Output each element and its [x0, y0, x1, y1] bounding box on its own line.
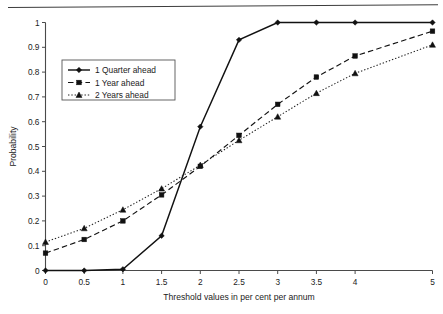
data-point-marker: [43, 251, 48, 256]
x-axis-tick-label: 3.5: [311, 277, 323, 287]
legend-item-label: 2 Years ahead: [95, 90, 149, 100]
x-axis-tick-label: 0.5: [78, 277, 90, 287]
legend-item-label: 1 Year ahead: [95, 78, 145, 88]
data-point-marker: [352, 20, 357, 25]
y-axis-tick-label: 0.4: [28, 166, 40, 176]
y-axis-tick-label: 0: [35, 266, 40, 276]
data-point-marker: [198, 124, 203, 129]
y-axis-tick-label: 0.1: [28, 241, 40, 251]
data-point-marker: [82, 237, 87, 242]
x-axis-tick-label: 5: [430, 277, 435, 287]
data-point-marker: [77, 80, 82, 85]
data-point-marker: [236, 137, 242, 142]
data-point-marker: [236, 37, 241, 42]
x-axis-tick-label: 4: [353, 277, 358, 287]
axis-titles-layer: Threshold values in per cent per annumPr…: [8, 126, 315, 302]
data-point-marker: [81, 225, 87, 230]
y-axis-tick-label: 0.6: [28, 117, 40, 127]
y-axis-tick-label: 0.8: [28, 67, 40, 77]
y-axis-tick-label: 0.9: [28, 42, 40, 52]
series-layer: [43, 20, 436, 273]
data-point-marker: [43, 239, 49, 244]
data-point-marker: [314, 75, 319, 80]
data-point-marker: [275, 20, 280, 25]
data-point-marker: [313, 90, 319, 95]
legend-item-label: 1 Quarter ahead: [95, 65, 156, 75]
x-axis-tick-label: 2.5: [233, 277, 245, 287]
probability-threshold-line-chart: 00.10.20.30.40.50.60.70.80.9100.511.522.…: [0, 0, 443, 314]
data-point-marker: [353, 54, 358, 59]
data-point-marker: [275, 102, 280, 107]
data-point-marker: [430, 42, 436, 47]
y-axis-tick-label: 0.7: [28, 92, 40, 102]
x-axis-tick-label: 1.5: [156, 277, 168, 287]
x-axis-tick-label: 2: [198, 277, 203, 287]
y-axis-title: Probability: [8, 126, 18, 167]
data-point-marker: [159, 186, 165, 191]
y-axis-tick-label: 0.3: [28, 191, 40, 201]
x-axis-tick-label: 1: [121, 277, 126, 287]
data-point-marker: [159, 193, 164, 198]
figure-container: 00.10.20.30.40.50.60.70.80.9100.511.522.…: [0, 0, 443, 314]
data-point-marker: [314, 20, 319, 25]
data-point-marker: [430, 20, 435, 25]
y-axis-tick-label: 0.5: [28, 142, 40, 152]
data-point-marker: [120, 207, 126, 212]
data-point-marker: [121, 219, 126, 224]
legend-layer[interactable]: 1 Quarter ahead1 Year ahead2 Years ahead: [62, 60, 175, 100]
x-axis-tick-label: 0: [43, 277, 48, 287]
data-point-marker: [82, 268, 87, 273]
data-point-marker: [43, 268, 48, 273]
data-point-marker: [352, 70, 358, 75]
y-axis-tick-label: 0.2: [28, 216, 40, 226]
series-1: [43, 20, 435, 273]
data-point-marker: [275, 114, 281, 119]
x-axis-title: Threshold values in per cent per annum: [163, 292, 314, 302]
data-point-marker: [430, 29, 435, 34]
y-axis-tick-label: 1: [35, 18, 40, 28]
x-axis-tick-label: 3: [275, 277, 280, 287]
